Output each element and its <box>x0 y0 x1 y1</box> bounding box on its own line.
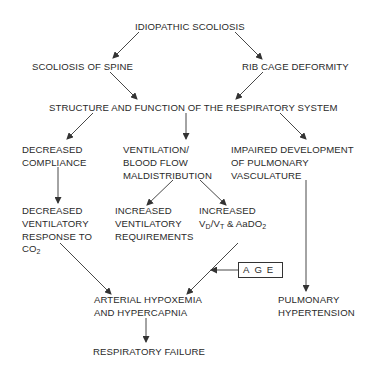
node-text: IMPAIRED DEVELOPMENT <box>231 144 354 157</box>
node-text: DECREASED <box>22 205 92 218</box>
node-increased-vent-requirements: INCREASED VENTILATORY REQUIREMENTS <box>115 205 194 243</box>
node-text: RESPIRATORY FAILURE <box>93 346 205 359</box>
edge-structure-compliance <box>67 113 93 139</box>
node-text: PULMONARY <box>278 294 355 307</box>
node-text: IDIOPATHIC SCOLIOSIS <box>135 21 245 34</box>
node-text: AND HYPERCAPNIA <box>94 307 202 320</box>
node-text: MALDISTRIBUTION <box>123 170 212 183</box>
subscript: 2 <box>37 248 41 255</box>
node-text: BLOOD FLOW <box>123 157 212 170</box>
node-idiopathic-scoliosis: IDIOPATHIC SCOLIOSIS <box>135 21 245 34</box>
node-arterial-hypoxemia: ARTERIAL HYPOXEMIA AND HYPERCAPNIA <box>94 294 202 320</box>
edge-maldistribution-vdvt <box>200 180 226 205</box>
co-text: CO <box>22 243 37 254</box>
node-text: VASCULATURE <box>231 170 354 183</box>
node-scoliosis-of-spine: SCOLIOSIS OF SPINE <box>32 61 133 74</box>
node-text: CO2 <box>22 243 92 256</box>
node-text: REQUIREMENTS <box>115 231 194 244</box>
v-text: /V <box>211 218 220 229</box>
node-text: OF PULMONARY <box>231 157 354 170</box>
node-decreased-compliance: DECREASED COMPLIANCE <box>22 144 86 170</box>
edge-maldistribution-requirements <box>147 180 173 205</box>
node-pulmonary-hypertension: PULMONARY HYPERTENSION <box>278 294 355 320</box>
aado-text: & AaDO <box>224 218 262 229</box>
age-label: AGE <box>243 264 278 275</box>
edge-spine-structure <box>110 72 137 99</box>
node-structure-function: STRUCTURE AND FUNCTION OF THE RESPIRATOR… <box>49 102 338 115</box>
node-text: DECREASED <box>22 144 86 157</box>
edge-ribcage-structure <box>236 72 263 99</box>
edge-structure-vasculature <box>280 113 306 139</box>
edge-idiopathic-spine <box>113 32 139 58</box>
node-text: VD/VT & AaDO2 <box>199 218 266 231</box>
node-increased-vdvt: INCREASED VD/VT & AaDO2 <box>199 205 266 231</box>
node-text: INCREASED <box>115 205 194 218</box>
edge-idiopathic-ribcage <box>235 32 262 59</box>
age-box: AGE <box>238 262 283 278</box>
node-text: VENTILATORY <box>22 218 92 231</box>
node-text: STRUCTURE AND FUNCTION OF THE RESPIRATOR… <box>49 102 338 115</box>
node-decreased-vent-response: DECREASED VENTILATORY RESPONSE TO CO2 <box>22 205 92 256</box>
node-impaired-vasculature: IMPAIRED DEVELOPMENT OF PULMONARY VASCUL… <box>231 144 354 182</box>
node-text: VENTILATION/ <box>123 144 212 157</box>
node-text: VENTILATORY <box>115 218 194 231</box>
node-respiratory-failure: RESPIRATORY FAILURE <box>93 346 205 359</box>
node-text: SCOLIOSIS OF SPINE <box>32 61 133 74</box>
node-text: RESPONSE TO <box>22 231 92 244</box>
node-text: INCREASED <box>199 205 266 218</box>
node-text: HYPERTENSION <box>278 307 355 320</box>
edge-vdvt-hypoxemia <box>187 243 238 294</box>
subscript: 2 <box>262 223 266 230</box>
node-rib-cage-deformity: RIB CAGE DEFORMITY <box>242 61 349 74</box>
node-ventilation-maldistribution: VENTILATION/ BLOOD FLOW MALDISTRIBUTION <box>123 144 212 182</box>
node-text: ARTERIAL HYPOXEMIA <box>94 294 202 307</box>
node-text: RIB CAGE DEFORMITY <box>242 61 349 74</box>
node-text: COMPLIANCE <box>22 157 86 170</box>
